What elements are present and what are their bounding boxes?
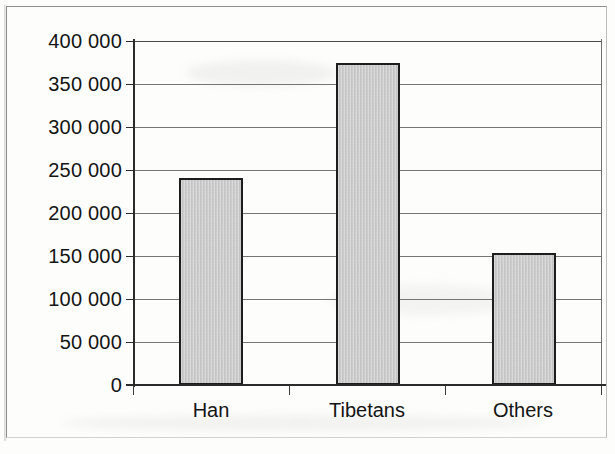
- y-tick-label: 150 000: [4, 246, 122, 266]
- y-tick-label: 400 000: [4, 31, 122, 51]
- x-tick-mark: [445, 386, 446, 395]
- y-tick-label: 50 000: [4, 332, 122, 352]
- gridline-400000: [133, 41, 602, 42]
- bar-han: [179, 178, 243, 385]
- x-tick-mark: [601, 386, 602, 395]
- y-tick-label: 300 000: [4, 117, 122, 137]
- plot-right-edge: [601, 39, 602, 386]
- x-category-label-han: Han: [131, 398, 291, 422]
- x-tick-mark: [133, 386, 134, 395]
- bar-chart-figure: 400 000 350 000 300 000 250 000 200 000 …: [0, 0, 615, 454]
- y-tick-label: 200 000: [4, 203, 122, 223]
- y-axis-labels: 400 000 350 000 300 000 250 000 200 000 …: [0, 0, 122, 454]
- bar-others: [492, 253, 556, 385]
- y-tick-label: 250 000: [4, 160, 122, 180]
- y-axis-line: [133, 39, 135, 387]
- x-tick-mark: [289, 386, 290, 395]
- y-tick-label: 0: [4, 375, 122, 395]
- x-category-label-others: Others: [443, 398, 603, 422]
- y-tick-label: 100 000: [4, 289, 122, 309]
- bar-tibetans: [336, 63, 400, 385]
- x-axis-line: [126, 384, 606, 386]
- x-category-label-tibetans: Tibetans: [287, 398, 447, 422]
- y-tick-label: 350 000: [4, 74, 122, 94]
